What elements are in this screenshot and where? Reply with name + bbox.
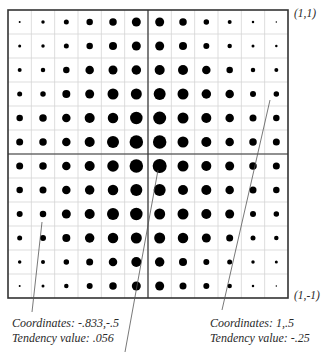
tendency-dot (130, 184, 142, 196)
tendency-dot (153, 159, 167, 173)
tendency-dot (225, 162, 234, 171)
tendency-dot (178, 161, 189, 172)
tendency-dot (252, 285, 255, 288)
corner-label-bottom-right: (1,-1) (294, 288, 320, 303)
tendency-dot (107, 160, 119, 172)
tendency-dot (131, 257, 141, 267)
tendency-dot (178, 233, 189, 244)
tendency-dot (85, 66, 94, 75)
tendency-dot (154, 88, 166, 100)
tendency-dot (85, 209, 95, 219)
tendency-dot (39, 138, 47, 146)
tendency-dot (62, 210, 71, 219)
tendency-dot (108, 233, 119, 244)
tendency-dot (201, 161, 211, 171)
tendency-dot (132, 42, 141, 51)
tendency-dot (64, 284, 69, 289)
tendency-dot (17, 92, 22, 97)
tendency-dot (109, 258, 118, 267)
tendency-dot (62, 90, 70, 98)
tendency-dot (108, 89, 119, 100)
tendency-dot (275, 261, 278, 264)
tendency-dot (179, 258, 187, 266)
tendency-dot (132, 18, 141, 27)
tendency-dot (62, 162, 71, 171)
tendency-dot (41, 68, 46, 73)
tendency-dot (273, 163, 280, 170)
tendency-dot-grid-figure: (1,1) (1,-1) Coordinates: -.833,-.5 Tend… (0, 0, 330, 360)
tendency-dot (64, 44, 69, 49)
tendency-dot (250, 187, 257, 194)
tendency-dot (155, 42, 164, 51)
annotation-left-tendency: Tendency value: .056 (12, 331, 119, 346)
tendency-dot (201, 209, 211, 219)
tendency-dot (131, 233, 142, 244)
tendency-dot (250, 115, 257, 122)
tendency-dot (153, 135, 167, 149)
tendency-dot (226, 67, 233, 74)
tendency-dot (154, 209, 165, 220)
tendency-dot (251, 260, 255, 264)
tendency-dot (155, 18, 164, 27)
tendency-dot (40, 91, 46, 97)
tendency-dot (178, 65, 188, 75)
tendency-dot (109, 66, 118, 75)
tendency-dot (228, 20, 232, 24)
tendency-dot (252, 45, 255, 48)
tendency-dot (64, 20, 69, 25)
tendency-dot (249, 138, 257, 146)
tendency-dot (16, 163, 23, 170)
tendency-dot (273, 115, 280, 122)
tendency-dot (202, 89, 212, 99)
tendency-dot (63, 67, 70, 74)
dot-grid (0, 0, 330, 360)
tendency-dot (201, 185, 211, 195)
tendency-dot (155, 65, 165, 75)
tendency-dot (132, 65, 142, 75)
tendency-dot (225, 186, 234, 195)
tendency-dot (107, 208, 119, 220)
annotation-leader-line (222, 100, 270, 310)
tendency-dot (40, 235, 46, 241)
tendency-dot (178, 185, 188, 195)
tendency-dot (62, 114, 71, 123)
tendency-dot (203, 259, 209, 265)
tendency-dot (130, 112, 143, 125)
annotation-right-coordinates: Coordinates: 1,.5 (210, 316, 310, 331)
tendency-dot (41, 260, 45, 264)
tendency-dot (109, 282, 117, 290)
tendency-dot (62, 186, 71, 195)
tendency-dot (202, 66, 211, 75)
tendency-dot (130, 159, 144, 173)
tendency-dot (16, 139, 23, 146)
tendency-dot (227, 260, 232, 265)
annotation-right-tendency: Tendency value: -.25 (210, 331, 310, 346)
tendency-dot (225, 138, 234, 147)
tendency-dot (154, 233, 165, 244)
annotation-left: Coordinates: -.833,-.5 Tendency value: .… (12, 316, 119, 346)
tendency-dot (201, 137, 211, 147)
tendency-dot (85, 233, 95, 243)
tendency-dot (40, 187, 47, 194)
tendency-dot (274, 91, 280, 97)
tendency-dot (178, 113, 189, 124)
tendency-dot (225, 114, 234, 123)
tendency-dot (130, 208, 143, 221)
tendency-dot (250, 211, 256, 217)
tendency-dot (87, 283, 93, 289)
tendency-dot (18, 45, 21, 48)
tendency-dot (108, 113, 119, 124)
tendency-dot (179, 42, 187, 50)
tendency-dot (155, 282, 164, 291)
tendency-dot (251, 236, 256, 241)
tendency-dot (19, 21, 21, 23)
tendency-dot (250, 91, 256, 97)
tendency-dot (276, 285, 278, 287)
tendency-dot (85, 90, 94, 99)
tendency-dot (85, 161, 95, 171)
tendency-dot (225, 210, 234, 219)
tendency-dot (109, 42, 117, 50)
tendency-dot (204, 19, 210, 25)
tendency-dot (16, 187, 23, 194)
tendency-dot (225, 90, 234, 99)
